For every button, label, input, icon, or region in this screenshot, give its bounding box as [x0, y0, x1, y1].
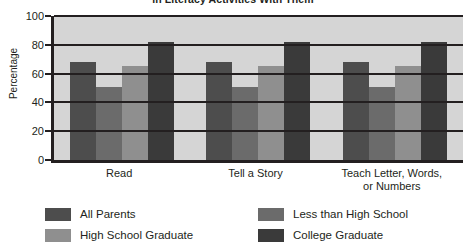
bar: [395, 66, 421, 160]
legend-label: High School Graduate: [80, 229, 193, 242]
y-tick-mark: [45, 101, 51, 103]
bar: [232, 87, 258, 160]
y-tick-mark: [45, 44, 51, 46]
bar: [343, 62, 369, 160]
x-category-label-line: Teach Letter, Words,: [324, 167, 460, 180]
y-axis-tick-labels: 020406080100: [14, 0, 44, 248]
bar: [206, 62, 232, 160]
legend-label: Less than High School: [293, 208, 408, 221]
x-category-label-line: Tell a Story: [187, 167, 323, 180]
gridline: [54, 44, 463, 46]
legend-item[interactable]: Less than High School: [258, 206, 408, 222]
legend-label: College Graduate: [293, 229, 383, 242]
y-tick-mark: [45, 73, 51, 75]
y-tick-label: 0: [14, 155, 44, 166]
x-category-label-line: or Numbers: [324, 180, 460, 193]
legend-swatch-icon: [45, 208, 71, 221]
legend-label: All Parents: [80, 208, 136, 221]
chart-legend: All ParentsLess than High SchoolHigh Sch…: [45, 206, 465, 246]
legend-item[interactable]: College Graduate: [258, 227, 383, 243]
y-tick-label: 40: [14, 97, 44, 108]
bar: [122, 66, 148, 160]
y-tick-label: 60: [14, 69, 44, 80]
gridline: [54, 73, 463, 75]
y-tick-label: 80: [14, 40, 44, 51]
bar-group: [54, 16, 190, 160]
bar: [70, 62, 96, 160]
legend-swatch-icon: [45, 229, 71, 242]
bar: [258, 66, 284, 160]
y-tick-mark: [45, 159, 51, 161]
gridline: [54, 15, 463, 17]
bar: [369, 87, 395, 160]
x-axis-baseline: [51, 160, 463, 163]
x-category-label: Teach Letter, Words,or Numbers: [324, 167, 460, 192]
chart-title: in Literacy Activities With Them: [0, 0, 466, 5]
gridline: [54, 101, 463, 103]
legend-swatch-icon: [258, 208, 284, 221]
y-tick-label: 100: [14, 11, 44, 22]
x-category-label: Read: [51, 167, 187, 180]
x-category-label-line: Read: [51, 167, 187, 180]
plot-area: [51, 16, 463, 160]
legend-swatch-icon: [258, 229, 284, 242]
gridline: [54, 130, 463, 132]
y-tick-label: 20: [14, 126, 44, 137]
bar-group: [327, 16, 463, 160]
bar-chart: in Literacy Activities With Them Percent…: [0, 0, 466, 248]
legend-item[interactable]: High School Graduate: [45, 227, 193, 243]
bar: [96, 87, 122, 160]
bar-group: [190, 16, 326, 160]
y-tick-mark: [45, 130, 51, 132]
legend-item[interactable]: All Parents: [45, 206, 136, 222]
x-category-label: Tell a Story: [187, 167, 323, 180]
y-tick-mark: [45, 15, 51, 17]
